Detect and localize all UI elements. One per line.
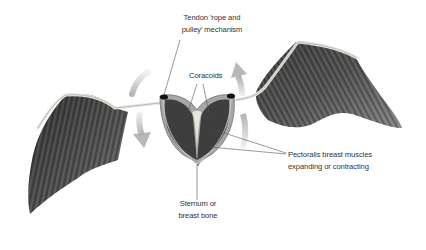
sternum-label: Sternum or breast bone (170, 198, 226, 222)
sternum-label-line2: breast bone (170, 210, 226, 222)
left-arrow-head (133, 132, 151, 148)
coracoids-label-line1: Coracoids (189, 70, 222, 82)
left-shoulder-joint (160, 94, 168, 99)
right-arrow-upper (238, 76, 242, 96)
coracoids-label: Coracoids (189, 70, 222, 82)
pectoralis-leader-1 (215, 130, 286, 153)
tendon-label-line2: pulley' mechanism (170, 24, 254, 36)
left-arrow-lower (139, 112, 142, 136)
sternum-body (160, 93, 235, 166)
pectoralis-label: Pectoralis breast muscles expanding or c… (288, 149, 372, 173)
left-wing (28, 94, 168, 214)
right-arrow-lower (243, 114, 245, 148)
tendon-leader (164, 40, 180, 95)
tendon-label-line1: Tendon 'rope and (170, 12, 254, 24)
pectoralis-label-line2: expanding or contracting (288, 161, 372, 173)
left-wing-feather-lines (28, 94, 128, 214)
left-down-arrow (132, 72, 151, 148)
right-wing-feather-lines (256, 42, 402, 128)
right-shoulder-joint (227, 93, 235, 98)
right-arrow-head (231, 62, 247, 78)
pectoralis-leader-2 (210, 147, 286, 154)
pectoralis-label-line1: Pectoralis breast muscles (288, 149, 372, 161)
right-wing (236, 42, 402, 128)
sternum-label-line1: Sternum or (170, 198, 226, 210)
left-arrow-upper (132, 72, 148, 94)
tendon-label: Tendon 'rope and pulley' mechanism (170, 12, 254, 36)
